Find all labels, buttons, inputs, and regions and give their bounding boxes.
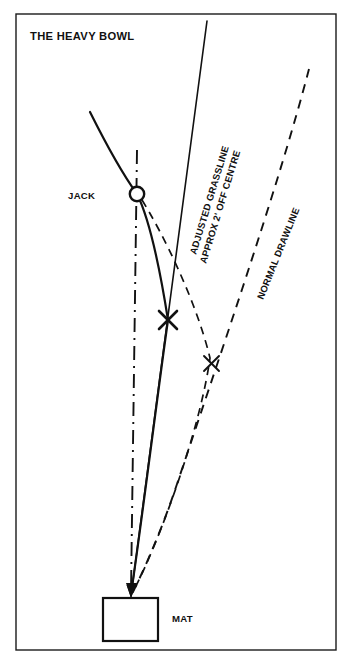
mat-label: MAT — [172, 613, 193, 624]
diagram-canvas: THE HEAVY BOWL JACK MAT ADJUSTED GRASSLI… — [0, 0, 351, 657]
heavy-bowl-track-path — [90, 112, 168, 594]
heavy-bowl-diagram: THE HEAVY BOWL JACK MAT ADJUSTED GRASSLI… — [0, 0, 351, 657]
mat-marker — [103, 598, 158, 641]
page-title: THE HEAVY BOWL — [30, 30, 134, 42]
heavy-bowl-arrowhead — [126, 583, 137, 598]
diagram-border — [16, 14, 336, 650]
centre-line-path — [131, 150, 137, 592]
normal-drawline-label: NORMAL DRAWLINE — [255, 206, 302, 301]
jack-marker — [130, 187, 144, 201]
jack-label: JACK — [68, 190, 95, 201]
